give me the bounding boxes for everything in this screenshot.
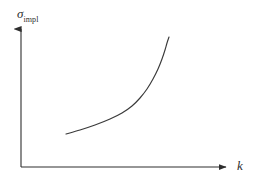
plot-canvas — [0, 0, 256, 182]
y-axis-label: σimpl — [17, 7, 39, 24]
figure-container: σimpl k — [0, 0, 256, 182]
x-axis-label: k — [237, 159, 243, 172]
implied-volatility-curve — [66, 37, 169, 134]
y-axis-label-subscript: impl — [23, 15, 38, 24]
